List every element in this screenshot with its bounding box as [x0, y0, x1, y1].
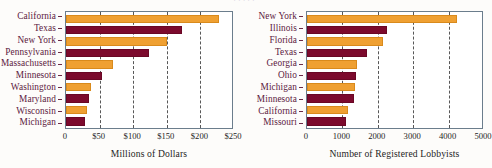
- bar-row: [66, 13, 232, 24]
- category-tick-right-8: California: [244, 105, 303, 117]
- axis-tick-mark: [299, 16, 303, 17]
- bar-row: [307, 59, 482, 70]
- category-label: Minnesota: [16, 71, 58, 80]
- x-tick-label: 5000: [474, 132, 491, 141]
- axis-tick-mark: [299, 123, 303, 124]
- category-tick-left-5: Minnesota: [0, 70, 62, 82]
- bar-row: [66, 70, 232, 81]
- right-x-axis-title: Number of Registered Lobbyists: [306, 148, 483, 159]
- x-tick-label: $250: [224, 132, 241, 141]
- category-tick-right-2: Florida: [244, 35, 303, 47]
- bar-row: [66, 104, 232, 115]
- bar-row: [307, 116, 482, 127]
- axis-tick-mark: [58, 28, 62, 29]
- category-label: Minnesota: [257, 95, 299, 104]
- axis-tick-mark: [299, 87, 303, 88]
- category-tick-right-6: Michigan: [244, 82, 303, 94]
- category-label: Massachusetts: [1, 59, 58, 68]
- category-label: California: [17, 12, 58, 21]
- category-tick-right-7: Minnesota: [244, 94, 303, 106]
- category-label: New York: [258, 12, 299, 21]
- x-tick-label: 0: [63, 132, 67, 141]
- category-label: Missouri: [263, 118, 299, 127]
- x-tick-label: 0: [304, 132, 308, 141]
- bar-row: [307, 70, 482, 81]
- category-label: Michigan: [20, 118, 58, 127]
- bar-new-york: [307, 15, 457, 23]
- bar-texas: [307, 49, 367, 57]
- category-label: Washington: [11, 83, 58, 92]
- bar-row: [307, 47, 482, 58]
- x-tick-label: $50: [92, 132, 105, 141]
- x-tick-label: $150: [157, 132, 174, 141]
- bar-illinois: [307, 26, 387, 34]
- category-tick-left-7: Maryland: [0, 94, 62, 106]
- axis-tick-mark: [58, 75, 62, 76]
- bar-texas: [66, 26, 182, 34]
- bar-row: [307, 13, 482, 24]
- category-tick-right-9: Missouri: [244, 117, 303, 129]
- bar-row: [66, 116, 232, 127]
- bar-row: [66, 59, 232, 70]
- axis-tick-mark: [299, 75, 303, 76]
- category-tick-left-0: California: [0, 11, 62, 23]
- category-label: Georgia: [267, 59, 299, 68]
- category-label: Texas: [275, 48, 299, 57]
- category-label: Illinois: [270, 24, 299, 33]
- category-label: New York: [17, 36, 58, 45]
- axis-tick-mark: [299, 52, 303, 53]
- axis-tick-mark: [58, 99, 62, 100]
- bar-row: [307, 93, 482, 104]
- axis-tick-mark: [58, 123, 62, 124]
- bar-new-york: [66, 37, 167, 45]
- right-category-axis: New YorkIllinoisFloridaTexasGeorgiaOhioM…: [244, 11, 303, 129]
- category-tick-left-9: Michigan: [0, 117, 62, 129]
- bar-maryland: [66, 94, 89, 102]
- category-label: Texas: [34, 24, 58, 33]
- bar-georgia: [307, 60, 357, 68]
- bar-row: [66, 81, 232, 92]
- left-x-axis-ticks: 0$50$100$150$200$250: [65, 132, 233, 148]
- category-label: Michigan: [261, 83, 299, 92]
- category-label: Maryland: [19, 95, 58, 104]
- axis-tick-mark: [299, 28, 303, 29]
- bar-row: [66, 47, 232, 58]
- x-tick-label: 1000: [333, 132, 350, 141]
- left-x-axis-title: Millions of Dollars: [65, 148, 233, 159]
- category-tick-right-4: Georgia: [244, 58, 303, 70]
- category-tick-left-2: New York: [0, 35, 62, 47]
- category-tick-right-0: New York: [244, 11, 303, 23]
- right-x-axis-ticks: 010002000300040005000: [306, 132, 483, 148]
- category-tick-left-6: Washington: [0, 82, 62, 94]
- axis-tick-mark: [58, 16, 62, 17]
- x-tick-label: 4000: [439, 132, 456, 141]
- x-tick-label: 3000: [404, 132, 421, 141]
- axis-tick-mark: [58, 40, 62, 41]
- left-plot-area: [65, 11, 233, 129]
- category-tick-right-1: Illinois: [244, 23, 303, 35]
- axis-tick-mark: [299, 64, 303, 65]
- bar-ohio: [307, 72, 356, 80]
- axis-tick-mark: [58, 87, 62, 88]
- left-chart-panel: CaliforniaTexasNew YorkPennsylvaniaMassa…: [0, 0, 244, 168]
- bar-row: [307, 36, 482, 47]
- bar-minnesota: [66, 72, 102, 80]
- category-label: Wisconsin: [16, 107, 58, 116]
- axis-tick-mark: [58, 111, 62, 112]
- bar-series-right: [307, 12, 482, 128]
- axis-tick-mark: [299, 99, 303, 100]
- bar-row: [66, 36, 232, 47]
- bar-missouri: [307, 117, 346, 125]
- axis-tick-mark: [58, 52, 62, 53]
- x-tick-label: 2000: [368, 132, 385, 141]
- x-tick-label: $100: [124, 132, 141, 141]
- bar-massachusetts: [66, 60, 113, 68]
- category-tick-right-3: Texas: [244, 46, 303, 58]
- bar-series-left: [66, 12, 232, 128]
- bar-row: [307, 24, 482, 35]
- axis-tick-mark: [299, 111, 303, 112]
- bar-california: [307, 106, 348, 114]
- x-tick-label: $200: [191, 132, 208, 141]
- category-tick-left-8: Wisconsin: [0, 105, 62, 117]
